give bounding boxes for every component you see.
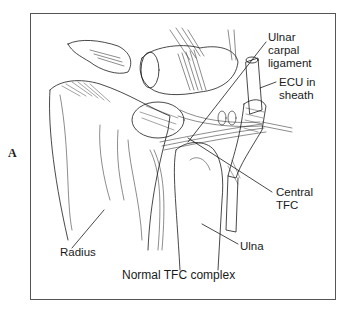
label-ulna: Ulna xyxy=(240,240,264,253)
label-radius: Radius xyxy=(60,246,96,259)
label-line: Central xyxy=(276,186,313,199)
label-line: sheath xyxy=(279,89,315,102)
figure-caption: Normal TFC complex xyxy=(122,268,235,282)
leader-radius xyxy=(72,210,104,248)
radius-bone xyxy=(50,81,170,250)
label-line: Ulnar xyxy=(268,31,311,44)
label-line: ligament xyxy=(268,57,311,70)
label-line: carpal xyxy=(268,44,311,57)
tfc-fibers xyxy=(150,124,266,250)
label-line: ECU in xyxy=(279,76,315,89)
leader-ecu-in-sheath xyxy=(260,82,276,88)
ulna-bone xyxy=(174,143,222,271)
label-ecu-in-sheath: ECU in sheath xyxy=(279,76,315,102)
label-ulnar-carpal-ligament: Ulnar carpal ligament xyxy=(268,31,311,70)
ecu-tendon xyxy=(246,58,262,114)
label-line: TFC xyxy=(276,199,313,212)
label-central-tfc: Central TFC xyxy=(276,186,313,212)
leader-central-tfc xyxy=(188,138,272,192)
carpal-bone-center xyxy=(132,102,184,138)
carpal-bone-left xyxy=(68,40,131,73)
